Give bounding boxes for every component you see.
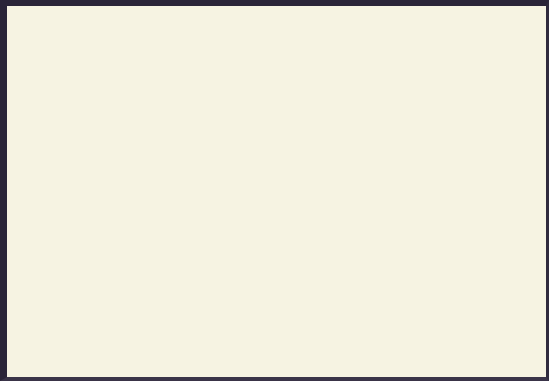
y-tick-label-6: 6 bbox=[19, 138, 24, 148]
y-axis: 012345678910 bbox=[0, 20, 28, 328]
x-tick-label-dam: Dam bbox=[82, 336, 101, 346]
y-tick-label-1: 1 bbox=[19, 291, 24, 301]
x-tick-label-naa: NaA bbox=[291, 336, 308, 346]
x-tick-label-der: Der bbox=[126, 336, 140, 346]
x-tick-label-mho: MHo bbox=[423, 336, 442, 346]
bar-naa bbox=[286, 179, 313, 327]
y-tick-label-9: 9 bbox=[19, 47, 24, 57]
bar-dam bbox=[78, 142, 105, 327]
y-tick-label-2: 2 bbox=[19, 261, 24, 271]
bar-mve bbox=[378, 122, 405, 327]
x-tick-label-ifr: IFr bbox=[211, 336, 222, 346]
x-tick-label-savm: SAVM bbox=[38, 336, 62, 346]
y-tick-label-8: 8 bbox=[19, 77, 24, 87]
y-tick-label-0: 0 bbox=[19, 322, 24, 332]
x-tick-label-mpr: MPr bbox=[466, 336, 482, 346]
bar-ifr bbox=[203, 116, 230, 327]
x-tick-label-mm: MM bbox=[509, 336, 523, 346]
bar-mm bbox=[503, 23, 530, 327]
x-tick-label-mme: MMe bbox=[340, 336, 359, 346]
x-tick-label-mve: MVe bbox=[383, 336, 400, 346]
bar-mpr bbox=[461, 91, 488, 327]
bar-ror bbox=[245, 194, 272, 327]
y-tick-label-10: 10 bbox=[14, 16, 24, 26]
bar-chart-screenshot: 012345678910 SAVMDamDerVaRIFrRoRNaAMMeMV… bbox=[0, 0, 549, 381]
bar-var bbox=[161, 180, 188, 327]
y-tick-label-5: 5 bbox=[19, 169, 24, 179]
x-axis: SAVMDamDerVaRIFrRoRNaAMMeMVeMHoMPrMM bbox=[31, 336, 531, 356]
y-tick-label-3: 3 bbox=[19, 230, 24, 240]
bar-der bbox=[120, 177, 147, 327]
y-tick-label-7: 7 bbox=[19, 108, 24, 118]
bar-mme bbox=[336, 91, 363, 327]
y-tick-label-4: 4 bbox=[19, 200, 24, 210]
bar-mho bbox=[419, 76, 446, 327]
x-tick-label-var: VaR bbox=[167, 336, 183, 346]
x-tick-label-ror: RoR bbox=[249, 336, 267, 346]
bars-layer bbox=[31, 21, 531, 327]
bar-savm bbox=[36, 119, 63, 327]
